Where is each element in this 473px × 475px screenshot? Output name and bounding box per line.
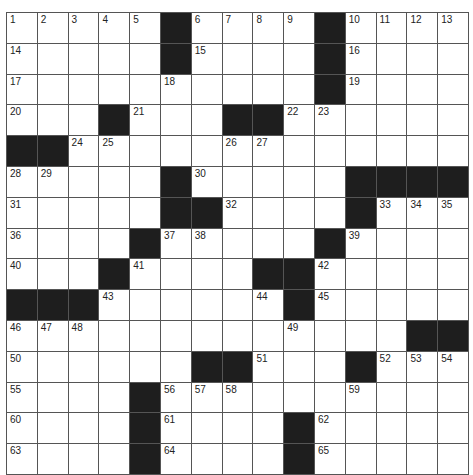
grid-cell[interactable] bbox=[315, 136, 346, 167]
grid-cell[interactable] bbox=[284, 44, 315, 75]
grid-cell[interactable] bbox=[192, 105, 223, 136]
grid-cell[interactable] bbox=[438, 444, 469, 475]
grid-cell[interactable]: 52 bbox=[377, 352, 408, 383]
grid-cell[interactable] bbox=[192, 75, 223, 106]
grid-cell[interactable] bbox=[38, 44, 69, 75]
grid-cell[interactable] bbox=[438, 75, 469, 106]
grid-cell[interactable]: 54 bbox=[438, 352, 469, 383]
grid-cell[interactable]: 35 bbox=[438, 198, 469, 229]
grid-cell[interactable]: 21 bbox=[130, 105, 161, 136]
grid-cell[interactable]: 17 bbox=[7, 75, 38, 106]
grid-cell[interactable] bbox=[161, 105, 192, 136]
grid-cell[interactable]: 1 bbox=[7, 13, 38, 44]
grid-cell[interactable] bbox=[253, 44, 284, 75]
grid-cell[interactable]: 57 bbox=[192, 383, 223, 414]
grid-cell[interactable] bbox=[38, 198, 69, 229]
grid-cell[interactable] bbox=[223, 259, 254, 290]
grid-cell[interactable] bbox=[130, 290, 161, 321]
grid-cell[interactable] bbox=[407, 383, 438, 414]
grid-cell[interactable]: 48 bbox=[69, 321, 100, 352]
grid-cell[interactable]: 31 bbox=[7, 198, 38, 229]
grid-cell[interactable] bbox=[130, 167, 161, 198]
grid-cell[interactable] bbox=[438, 383, 469, 414]
grid-cell[interactable] bbox=[161, 321, 192, 352]
grid-cell[interactable] bbox=[253, 229, 284, 260]
grid-cell[interactable] bbox=[69, 44, 100, 75]
grid-cell[interactable]: 60 bbox=[7, 413, 38, 444]
grid-cell[interactable] bbox=[161, 259, 192, 290]
grid-cell[interactable]: 41 bbox=[130, 259, 161, 290]
grid-cell[interactable] bbox=[69, 259, 100, 290]
grid-cell[interactable] bbox=[130, 75, 161, 106]
grid-cell[interactable]: 11 bbox=[377, 13, 408, 44]
grid-cell[interactable]: 43 bbox=[99, 290, 130, 321]
grid-cell[interactable] bbox=[315, 383, 346, 414]
grid-cell[interactable]: 9 bbox=[284, 13, 315, 44]
grid-cell[interactable]: 16 bbox=[346, 44, 377, 75]
grid-cell[interactable] bbox=[130, 352, 161, 383]
grid-cell[interactable] bbox=[69, 198, 100, 229]
grid-cell[interactable] bbox=[346, 136, 377, 167]
grid-cell[interactable]: 13 bbox=[438, 13, 469, 44]
grid-cell[interactable]: 14 bbox=[7, 44, 38, 75]
grid-cell[interactable]: 24 bbox=[69, 136, 100, 167]
grid-cell[interactable] bbox=[377, 321, 408, 352]
grid-cell[interactable]: 5 bbox=[130, 13, 161, 44]
grid-cell[interactable] bbox=[284, 383, 315, 414]
grid-cell[interactable]: 37 bbox=[161, 229, 192, 260]
grid-cell[interactable] bbox=[38, 75, 69, 106]
grid-cell[interactable] bbox=[99, 321, 130, 352]
grid-cell[interactable] bbox=[284, 75, 315, 106]
grid-cell[interactable] bbox=[284, 167, 315, 198]
grid-cell[interactable] bbox=[69, 444, 100, 475]
grid-cell[interactable] bbox=[99, 444, 130, 475]
grid-cell[interactable] bbox=[192, 321, 223, 352]
grid-cell[interactable] bbox=[99, 198, 130, 229]
grid-cell[interactable] bbox=[253, 444, 284, 475]
grid-cell[interactable] bbox=[223, 75, 254, 106]
grid-cell[interactable]: 56 bbox=[161, 383, 192, 414]
grid-cell[interactable]: 55 bbox=[7, 383, 38, 414]
grid-cell[interactable] bbox=[377, 383, 408, 414]
grid-cell[interactable] bbox=[438, 290, 469, 321]
grid-cell[interactable] bbox=[69, 352, 100, 383]
grid-cell[interactable] bbox=[407, 290, 438, 321]
grid-cell[interactable] bbox=[377, 105, 408, 136]
grid-cell[interactable] bbox=[69, 229, 100, 260]
grid-cell[interactable] bbox=[284, 136, 315, 167]
grid-cell[interactable]: 19 bbox=[346, 75, 377, 106]
grid-cell[interactable] bbox=[315, 198, 346, 229]
grid-cell[interactable] bbox=[253, 321, 284, 352]
grid-cell[interactable]: 61 bbox=[161, 413, 192, 444]
grid-cell[interactable] bbox=[346, 259, 377, 290]
grid-cell[interactable] bbox=[438, 229, 469, 260]
grid-cell[interactable] bbox=[377, 136, 408, 167]
grid-cell[interactable]: 59 bbox=[346, 383, 377, 414]
grid-cell[interactable]: 33 bbox=[377, 198, 408, 229]
grid-cell[interactable]: 49 bbox=[284, 321, 315, 352]
grid-cell[interactable] bbox=[69, 75, 100, 106]
grid-cell[interactable] bbox=[69, 413, 100, 444]
grid-cell[interactable] bbox=[69, 383, 100, 414]
grid-cell[interactable]: 2 bbox=[38, 13, 69, 44]
grid-cell[interactable] bbox=[253, 198, 284, 229]
grid-cell[interactable] bbox=[346, 413, 377, 444]
grid-cell[interactable]: 47 bbox=[38, 321, 69, 352]
grid-cell[interactable] bbox=[38, 105, 69, 136]
grid-cell[interactable] bbox=[38, 352, 69, 383]
grid-cell[interactable] bbox=[161, 290, 192, 321]
grid-cell[interactable] bbox=[407, 136, 438, 167]
grid-cell[interactable]: 28 bbox=[7, 167, 38, 198]
grid-cell[interactable] bbox=[99, 75, 130, 106]
grid-cell[interactable] bbox=[377, 259, 408, 290]
grid-cell[interactable] bbox=[407, 75, 438, 106]
grid-cell[interactable] bbox=[438, 259, 469, 290]
grid-cell[interactable]: 30 bbox=[192, 167, 223, 198]
grid-cell[interactable] bbox=[253, 413, 284, 444]
grid-cell[interactable] bbox=[284, 352, 315, 383]
grid-cell[interactable] bbox=[377, 413, 408, 444]
grid-cell[interactable]: 39 bbox=[346, 229, 377, 260]
grid-cell[interactable] bbox=[346, 290, 377, 321]
grid-cell[interactable] bbox=[130, 44, 161, 75]
grid-cell[interactable] bbox=[38, 229, 69, 260]
